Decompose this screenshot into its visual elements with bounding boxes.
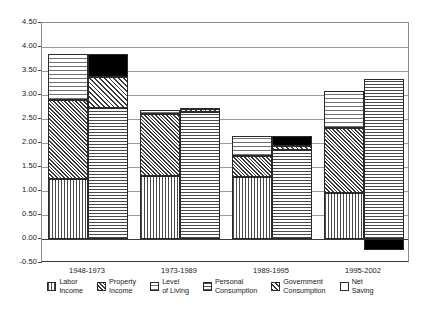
bar-segment-labor [324, 193, 364, 239]
legend-swatch-property [97, 282, 106, 291]
bar-left [324, 23, 364, 263]
legend-swatch-saving [340, 282, 349, 291]
y-axis-tick-mark [38, 262, 42, 263]
x-axis-tick-label: 1973-1989 [139, 266, 219, 275]
y-axis-tick-label: 4.50 [0, 17, 37, 26]
bar-left [232, 23, 272, 263]
bar-segment-government [272, 146, 312, 150]
legend-swatch-labor [47, 282, 56, 291]
bar-left [140, 23, 180, 263]
legend-label: Labor Income [59, 278, 83, 295]
legend-label: Personal Consumption [215, 278, 257, 295]
bar-segment-living [232, 136, 272, 157]
legend-item: Government Consumption [271, 278, 325, 295]
legend-item: Property Income [97, 278, 136, 295]
bar-right [364, 23, 404, 263]
bar-right [180, 23, 220, 263]
bar-segment-saving [364, 239, 404, 250]
y-axis-tick-label: 3.00 [0, 89, 37, 98]
legend-swatch-government [271, 282, 280, 291]
bar-segment-property [324, 128, 364, 194]
legend-label: Level of Living [162, 278, 189, 295]
bar-segment-living [48, 54, 88, 100]
bar-segment-personal [364, 79, 404, 239]
bar-segment-personal [180, 112, 220, 239]
x-axis-tick-label: 1948-1973 [47, 266, 127, 275]
bar-right [272, 23, 312, 263]
bar-segment-property [140, 114, 180, 176]
bar-segment-saving [272, 136, 312, 147]
legend-swatch-living [150, 282, 159, 291]
y-axis-tick-label: 0.50 [0, 209, 37, 218]
stacked-bar-chart: 4.504.003.503.002.502.001.501.000.500.00… [0, 0, 421, 310]
bar-segment-property [232, 156, 272, 176]
bar-right [88, 23, 128, 263]
bar-segment-living [324, 91, 364, 127]
bar-segment-labor [232, 177, 272, 239]
bar-segment-living [140, 110, 180, 114]
bar-segment-saving [180, 108, 220, 110]
legend-item: Personal Consumption [203, 278, 257, 295]
plot-area [41, 22, 409, 262]
bar-segment-labor [140, 176, 180, 239]
bar-segment-personal [272, 150, 312, 239]
legend-item: Labor Income [47, 278, 83, 295]
chart-legend: Labor IncomeProperty IncomeLevel of Livi… [0, 278, 421, 308]
bar-left [48, 23, 88, 263]
bar-segment-labor [48, 179, 88, 239]
y-axis-tick-label: 3.50 [0, 65, 37, 74]
bar-segment-personal [88, 108, 128, 239]
legend-label: Government Consumption [283, 278, 325, 295]
y-axis-tick-label: 4.00 [0, 41, 37, 50]
y-axis-tick-label: 2.50 [0, 113, 37, 122]
x-axis-tick-label: 1995-2002 [323, 266, 403, 275]
legend-label: Property Income [109, 278, 136, 295]
legend-swatch-personal [203, 282, 212, 291]
y-axis-tick-label: 2.00 [0, 137, 37, 146]
bar-segment-property [48, 100, 88, 179]
y-axis-tick-label: 1.00 [0, 185, 37, 194]
x-axis-tick-label: 1989-1995 [231, 266, 311, 275]
y-axis-tick-label: -0.50 [0, 257, 37, 266]
bar-segment-saving [88, 54, 128, 77]
y-axis-tick-label: 1.50 [0, 161, 37, 170]
legend-label: Net Saving [352, 278, 374, 295]
legend-item: Level of Living [150, 278, 189, 295]
legend-item: Net Saving [340, 278, 374, 295]
bar-segment-government [88, 77, 128, 108]
y-axis-tick-label: 0.00 [0, 233, 37, 242]
